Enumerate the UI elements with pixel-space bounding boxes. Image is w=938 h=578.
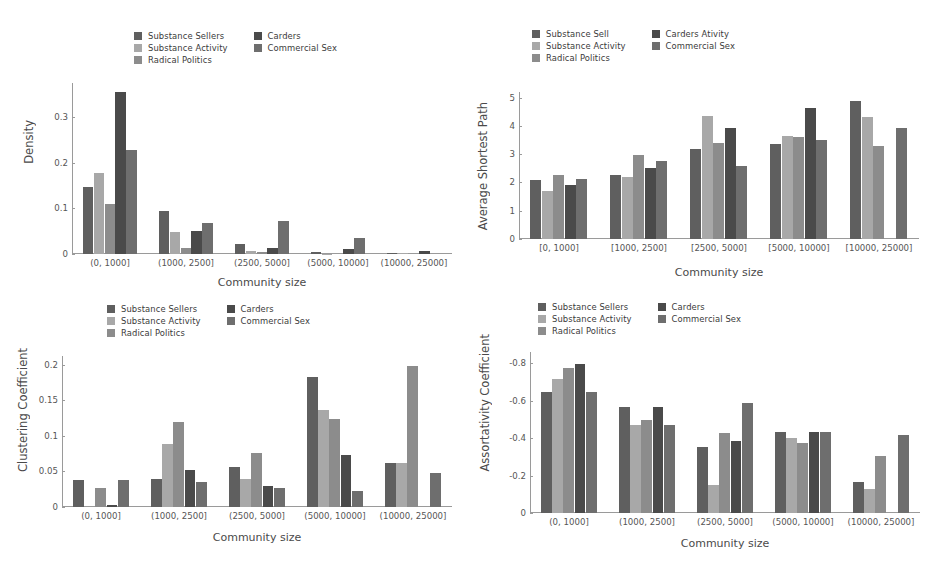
bar xyxy=(552,379,563,513)
x-axis-label-clustering-coefficient: Community size xyxy=(62,531,452,544)
legend-swatch xyxy=(254,44,262,52)
legend-swatch xyxy=(254,32,262,40)
legend-item[interactable]: Substance Activity xyxy=(134,43,228,53)
y-axis-tick-mark xyxy=(62,507,65,508)
bar xyxy=(185,470,196,507)
bar xyxy=(805,108,816,239)
y-axis-tick-label: -0.8 xyxy=(509,358,526,368)
bar xyxy=(725,128,736,239)
y-axis-label-average-shortest-path: Average Shortest Path xyxy=(476,102,490,230)
bar xyxy=(742,403,753,513)
bar xyxy=(170,232,180,254)
y-axis-tick-mark xyxy=(72,208,75,209)
legend-item-label: Radical Politics xyxy=(552,326,616,336)
bar xyxy=(653,407,664,513)
y-axis-tick-label: 0.1 xyxy=(54,203,68,213)
legend-item-label: Substance Sellers xyxy=(121,304,197,314)
x-axis-tick-label: [2500, 5000] xyxy=(691,243,747,253)
bar xyxy=(563,368,574,513)
legend-density: Substance SellersSubstance ActivityRadic… xyxy=(134,31,337,65)
legend-item[interactable]: Substance Activity xyxy=(107,316,201,326)
legend-item[interactable]: Commercial Sex xyxy=(652,41,735,51)
legend-item[interactable]: Radical Politics xyxy=(107,328,201,338)
legend-swatch xyxy=(538,315,546,323)
bar xyxy=(853,482,864,513)
bar xyxy=(850,101,861,239)
bar xyxy=(430,473,441,507)
bar xyxy=(94,173,104,254)
x-axis-tick-label: (2500, 5000] xyxy=(697,517,753,527)
bar xyxy=(173,422,184,507)
bar xyxy=(775,432,786,513)
bar xyxy=(702,116,713,239)
legend-item-label: Substance Activity xyxy=(121,316,201,326)
legend-item[interactable]: Radical Politics xyxy=(532,53,626,63)
x-axis-tick-label: [1000, 2500] xyxy=(611,243,667,253)
legend-item[interactable]: Substance Sellers xyxy=(538,302,632,312)
legend-item[interactable]: Commercial Sex xyxy=(227,316,310,326)
y-axis-tick-label: 0 xyxy=(53,502,58,512)
legend-item[interactable]: Substance Sellers xyxy=(134,31,228,41)
plot-density: 00.10.20.3(0, 1000](1000, 2500](2500, 50… xyxy=(72,83,452,254)
y-axis-tick-label: 0.2 xyxy=(54,158,68,168)
legend-item-label: Substance Activity xyxy=(552,314,632,324)
legend-item-label: Substance Activity xyxy=(148,43,228,53)
bar xyxy=(105,204,115,254)
legend-item[interactable]: Substance Activity xyxy=(532,41,626,51)
y-axis-tick-mark xyxy=(530,476,533,477)
x-axis-tick-label: (5000, 10000] xyxy=(307,258,368,268)
legend-item-label: Commercial Sex xyxy=(672,314,741,324)
legend-item-label: Carders xyxy=(672,302,705,312)
y-axis-tick-label: 0.15 xyxy=(39,395,58,405)
y-axis-label-assortativity-coefficient: Assortativity Coefficient xyxy=(478,334,492,472)
bar xyxy=(809,432,820,513)
legend-item-label: Substance Sellers xyxy=(148,31,224,41)
legend-average-shortest-path: Substance SellSubstance ActivityRadical … xyxy=(532,29,735,63)
bar xyxy=(575,364,586,513)
bar xyxy=(820,432,831,513)
bar xyxy=(586,392,597,513)
legend-item-label: Commercial Sex xyxy=(268,43,337,53)
bar xyxy=(246,251,256,254)
bar xyxy=(797,443,808,513)
bar xyxy=(541,392,552,513)
bar xyxy=(396,463,407,507)
legend-item[interactable]: Carders xyxy=(254,31,337,41)
y-axis-tick-mark xyxy=(519,239,522,240)
legend-item[interactable]: Substance Activity xyxy=(538,314,632,324)
bar xyxy=(898,435,909,513)
bar xyxy=(736,166,747,239)
legend-item[interactable]: Substance Sellers xyxy=(107,304,201,314)
legend-swatch xyxy=(538,303,546,311)
legend-item[interactable]: Commercial Sex xyxy=(658,314,741,324)
panel-density: Substance SellersSubstance ActivityRadic… xyxy=(0,0,470,290)
legend-item-label: Commercial Sex xyxy=(241,316,310,326)
bar xyxy=(630,425,641,513)
legend-item[interactable]: Radical Politics xyxy=(538,326,632,336)
legend-assortativity-coefficient: Substance SellersSubstance ActivityRadic… xyxy=(538,302,741,336)
legend-item-label: Substance Activity xyxy=(546,41,626,51)
bar xyxy=(530,180,541,239)
bar xyxy=(864,489,875,513)
legend-item[interactable]: Substance Sell xyxy=(532,29,626,39)
x-axis-label-density: Community size xyxy=(72,276,452,289)
y-axis-tick-mark xyxy=(530,513,533,514)
bar xyxy=(664,425,675,513)
bar xyxy=(181,248,191,254)
legend-item[interactable]: Carders xyxy=(227,304,310,314)
x-axis-tick-label: (0, 1000] xyxy=(549,517,589,527)
legend-swatch xyxy=(652,30,660,38)
legend-swatch xyxy=(134,44,142,52)
legend-item[interactable]: Radical Politics xyxy=(134,55,228,65)
legend-item-label: Carders xyxy=(268,31,301,41)
plot-clustering-coefficient: 00.050.10.150.2(0, 1000](1000, 2500](250… xyxy=(62,356,452,507)
bar xyxy=(385,463,396,507)
y-axis-label-density: Density xyxy=(22,120,36,164)
bar xyxy=(862,117,873,239)
legend-item[interactable]: Commercial Sex xyxy=(254,43,337,53)
legend-item[interactable]: Carders xyxy=(658,302,741,312)
legend-item[interactable]: Carders Ativity xyxy=(652,29,735,39)
bar xyxy=(656,161,667,239)
y-axis-tick-label: 0.3 xyxy=(54,112,68,122)
legend-swatch xyxy=(227,305,235,313)
